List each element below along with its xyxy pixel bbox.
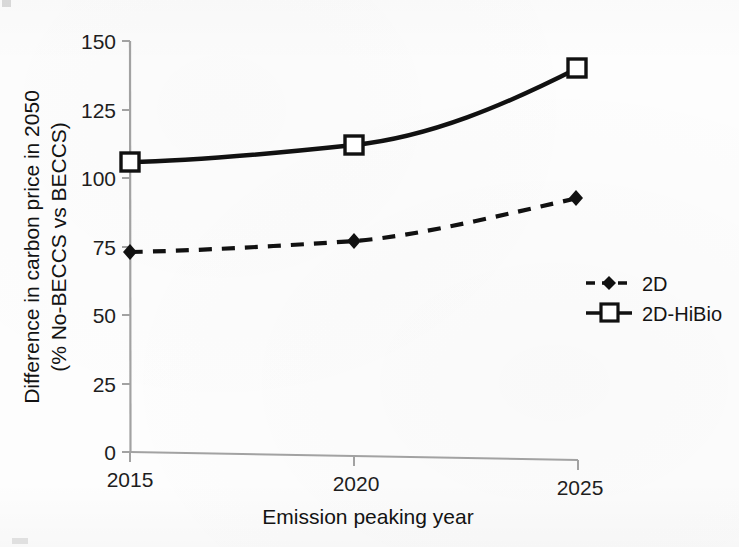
x-tick-label-2020: 2020 [333, 472, 380, 495]
y-tick-label-0: 0 [104, 441, 116, 464]
marker-2d-hibio-2025 [568, 59, 586, 77]
chart-figure: 150 125 100 75 50 25 0 2015 2020 2025 Em… [0, 0, 739, 547]
marker-2d-hibio-2020 [345, 136, 363, 154]
x-tick-label-2015: 2015 [107, 468, 154, 491]
y-axis-title-line1: Difference in carbon price in 2050 [20, 90, 43, 404]
y-tick-label-50: 50 [93, 304, 116, 327]
legend-marker-2d-hibio-icon [601, 304, 618, 321]
y-axis-title-line2: (% No-BECCS vs BECCS) [47, 122, 70, 372]
y-tick-label-125: 125 [81, 99, 116, 122]
legend-item-2d[interactable]: 2D [586, 273, 668, 295]
legend-item-2d-hibio[interactable]: 2D-HiBio [586, 303, 722, 325]
x-axis-title: Emission peaking year [262, 505, 473, 528]
legend-label-2d-hibio: 2D-HiBio [642, 303, 722, 325]
y-tick-label-25: 25 [93, 373, 116, 396]
y-tick-label-100: 100 [81, 167, 116, 190]
marker-2d-2025 [569, 190, 583, 206]
x-tick-label-2025: 2025 [557, 476, 604, 499]
legend-label-2d: 2D [642, 273, 668, 295]
line-chart-svg: 150 125 100 75 50 25 0 2015 2020 2025 Em… [0, 0, 739, 547]
series-markers-2d-hibio [121, 59, 586, 171]
y-tick-label-75: 75 [93, 236, 116, 259]
marker-2d-hibio-2015 [121, 153, 139, 171]
chart-legend: 2D 2D-HiBio [586, 273, 722, 325]
series-markers-2d [123, 190, 583, 260]
y-tick-label-150: 150 [81, 30, 116, 53]
marker-2d-2020 [347, 233, 361, 249]
x-axis-ticks [130, 452, 578, 470]
legend-marker-2d-icon [602, 276, 616, 290]
